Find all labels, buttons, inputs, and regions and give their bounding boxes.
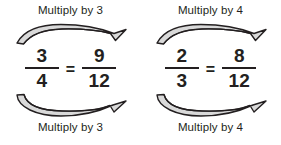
denominator-multiply-arrow-left [14, 92, 132, 118]
denominator-multiply-arrow-right [154, 92, 272, 118]
top-caption-left: Multiply by 3 [0, 3, 141, 17]
numerator-value: 3 [37, 45, 48, 66]
bottom-caption-right: Multiply by 4 [140, 120, 281, 134]
fraction-equivalent-left: 9 12 [81, 45, 117, 91]
equation-left: 3 4 = 9 12 [0, 44, 141, 92]
numerator-value: 9 [94, 45, 105, 66]
denominator-value: 12 [229, 70, 250, 91]
fraction-original-right: 2 3 [164, 45, 200, 91]
fraction-equivalent-right: 8 12 [221, 45, 257, 91]
fraction-group-right: Multiply by 4 2 3 = 8 12 [140, 0, 281, 145]
fraction-group-left: Multiply by 3 3 4 = 9 12 [0, 0, 141, 145]
top-caption-right: Multiply by 4 [140, 3, 281, 17]
denominator-value: 3 [177, 70, 188, 91]
equals-sign: = [66, 59, 75, 80]
equals-sign: = [206, 59, 215, 80]
numerator-value: 2 [177, 45, 188, 66]
fraction-bar [222, 67, 256, 69]
equation-right: 2 3 = 8 12 [140, 44, 281, 92]
denominator-value: 12 [89, 70, 110, 91]
numerator-value: 8 [234, 45, 245, 66]
denominator-value: 4 [37, 70, 48, 91]
fraction-diagram-canvas: Multiply by 3 3 4 = 9 12 [0, 0, 281, 145]
fraction-original-left: 3 4 [24, 45, 60, 91]
fraction-bar [82, 67, 116, 69]
fraction-bar [25, 67, 59, 69]
bottom-caption-left: Multiply by 3 [0, 120, 141, 134]
fraction-bar [165, 67, 199, 69]
